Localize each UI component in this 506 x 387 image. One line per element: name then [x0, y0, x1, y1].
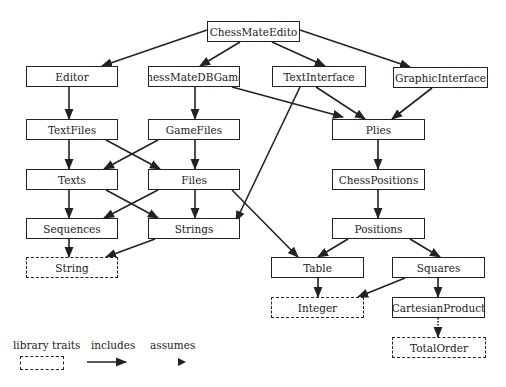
edge-textfiles-to-files [106, 140, 160, 169]
node-table: Table [271, 257, 364, 278]
edge-textinterface-to-strings [236, 87, 300, 221]
node-label: String [55, 262, 88, 274]
legend-library-traits-label: library traits [13, 339, 80, 351]
node-label: GameFiles [166, 124, 222, 136]
node-chessmatedbgames: ChessMateDBGames [148, 66, 240, 87]
node-label: Integer [298, 302, 337, 314]
node-textfiles: TextFiles [26, 119, 118, 140]
node-label: Table [303, 262, 332, 274]
node-label: Texts [58, 174, 86, 186]
legend-assumes-label: assumes [150, 339, 195, 351]
edge-textinterface-to-plies [316, 87, 365, 119]
node-label: TextInterface [283, 71, 354, 83]
node-label: Sequences [43, 223, 100, 235]
node-label: TextFiles [48, 124, 96, 136]
node-sequences: Sequences [26, 218, 118, 239]
node-squares: Squares [392, 257, 485, 278]
node-label: Strings [175, 223, 214, 235]
edge-squares-to-integer [358, 278, 405, 297]
node-label: ChessPositions [339, 174, 419, 186]
node-integer: Integer [271, 297, 364, 318]
node-label: GraphicInterface [395, 72, 486, 84]
legend-includes-label: includes [91, 339, 135, 351]
node-strings: Strings [148, 218, 240, 239]
edges-layer [0, 0, 506, 387]
node-gamefiles: GameFiles [148, 119, 240, 140]
edge-gamefiles-to-texts [104, 140, 158, 169]
node-files: Files [148, 169, 240, 190]
edge-positions-to-squares [410, 239, 440, 257]
edge-strings-to-string [106, 239, 155, 257]
node-label: TotalOrder [410, 342, 468, 354]
legend-assumes-arrow-icon [178, 358, 186, 366]
node-label: Positions [355, 223, 403, 235]
edge-positions-to-table [318, 239, 348, 257]
node-graphicinterface: GraphicInterface [393, 67, 488, 88]
edge-chessmateeditor-to-chessmatedbgames [200, 42, 240, 66]
edge-chessmateeditor-to-editor [102, 30, 207, 66]
node-cartesianproduct: CartesianProduct [392, 297, 485, 318]
node-texts: Texts [26, 169, 118, 190]
dependency-diagram: ChessMateEditoEditorChessMateDBGamesText… [0, 0, 506, 387]
node-textinterface: TextInterface [272, 66, 366, 87]
node-plies: Plies [332, 119, 425, 140]
edge-files-to-table [232, 190, 298, 257]
edge-chessmateeditor-to-textinterface [272, 42, 325, 66]
node-editor: Editor [26, 66, 118, 87]
node-label: Editor [55, 71, 88, 83]
node-label: ChessMateEdito [210, 26, 298, 38]
node-label: Squares [417, 262, 461, 274]
node-totalorder: TotalOrder [392, 337, 486, 358]
node-chessmateeditor: ChessMateEdito [207, 21, 300, 42]
node-label: ChessMateDBGames [148, 71, 240, 83]
node-label: Plies [366, 124, 391, 136]
node-string: String [26, 257, 118, 278]
node-positions: Positions [332, 218, 425, 239]
node-label: CartesianProduct [392, 302, 485, 314]
legend-library-traits-box-icon [20, 356, 64, 370]
node-label: Files [181, 174, 207, 186]
edge-graphicinterface-to-plies [392, 88, 432, 119]
node-chesspositions: ChessPositions [332, 169, 425, 190]
